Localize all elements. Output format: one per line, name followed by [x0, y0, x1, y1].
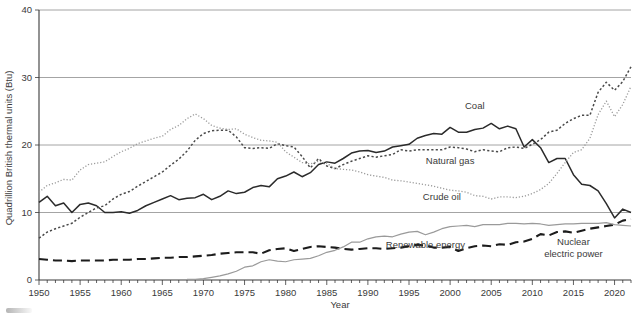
x-tick-label: 2005 — [481, 287, 502, 298]
series-line-renewable-energy — [39, 219, 631, 261]
x-tick-labels: 1950195519601965197019751980198519901995… — [28, 287, 625, 298]
series-annotations-group: CoalNatural gasCrude oilRenewable energy… — [386, 100, 603, 259]
energy-consumption-line-chart: 010203040 195019551960196519701975198019… — [0, 0, 633, 314]
x-tick-label: 1975 — [234, 287, 255, 298]
caption-fragment — [6, 308, 32, 313]
x-axis-title: Year — [330, 299, 349, 310]
series-label-natural-gas: Natural gas — [426, 155, 475, 166]
x-tick-label: 1980 — [275, 287, 296, 298]
x-tick-label: 1985 — [316, 287, 337, 298]
gridlines-group — [39, 10, 631, 213]
y-tick-label: 40 — [21, 4, 32, 15]
y-tick-labels: 010203040 — [21, 4, 32, 285]
x-axis — [39, 280, 631, 285]
x-tick-label: 2020 — [604, 287, 625, 298]
x-tick-label: 1965 — [152, 287, 173, 298]
x-tick-label: 2015 — [563, 287, 584, 298]
y-tick-label: 0 — [27, 274, 32, 285]
x-tick-label: 2010 — [522, 287, 543, 298]
data-series-group — [39, 67, 631, 280]
x-tick-label: 1990 — [357, 287, 378, 298]
chart-figure: 010203040 195019551960196519701975198019… — [0, 0, 633, 314]
x-tick-label: 1960 — [111, 287, 132, 298]
y-tick-label: 20 — [21, 139, 32, 150]
series-label-coal: Coal — [465, 100, 485, 111]
x-tick-label: 1955 — [70, 287, 91, 298]
series-line-crude-oil — [39, 86, 631, 199]
x-tick-label: 2000 — [440, 287, 461, 298]
y-tick-label: 30 — [21, 72, 32, 83]
x-tick-label: 1995 — [398, 287, 419, 298]
y-axis — [35, 10, 39, 280]
y-axis-title: Quadrillion British thermal units (Btu) — [3, 71, 14, 226]
series-label-crude-oil: Crude oil — [423, 191, 461, 202]
series-label-nuclear-electric-power: Nuclearelectric power — [544, 236, 603, 259]
x-tick-label: 1970 — [193, 287, 214, 298]
x-tick-label: 1950 — [28, 287, 49, 298]
y-tick-label: 10 — [21, 207, 32, 218]
series-label-renewable-energy: Renewable energy — [386, 239, 465, 250]
